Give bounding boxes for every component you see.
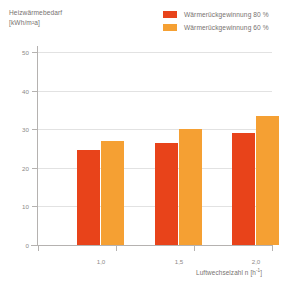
bar-0-0 — [77, 150, 100, 245]
y-tick-label: 0 — [26, 242, 29, 249]
plot-area: 01020304050 1,01,52,0 — [38, 52, 272, 245]
x-tick-mark — [38, 245, 39, 251]
y-tick-label: 20 — [22, 164, 29, 171]
y-tick-label: 30 — [22, 126, 29, 133]
legend-swatch-icon-1 — [163, 24, 177, 31]
x-tick-label: 1,5 — [175, 258, 184, 265]
bar-chart: Heizwärmebedarf [kWh/m²a] Wärmerückgewin… — [0, 0, 295, 289]
legend-item-1: Wärmerückgewinnung 60 % — [163, 22, 269, 33]
x-axis-line — [31, 245, 272, 246]
chart-legend: Wärmerückgewinnung 80 % Wärmerückgewinnu… — [163, 9, 269, 35]
bar-1-0 — [101, 141, 124, 245]
y-axis-title-line2: [kWh/m²a] — [9, 18, 62, 28]
x-axis-title: Luftwechselzahl n [h-1] — [196, 268, 262, 276]
bar-1-2 — [256, 116, 279, 245]
y-axis-title-line1: Heizwärmebedarf — [9, 8, 62, 18]
bar-0-2 — [232, 133, 255, 245]
y-tick-label: 10 — [22, 203, 29, 210]
legend-swatch-icon-0 — [163, 11, 177, 18]
x-tick-mark — [116, 245, 117, 251]
y-tick-label: 40 — [22, 87, 29, 94]
y-tick-label: 50 — [22, 49, 29, 56]
x-tick-label: 1,0 — [97, 258, 106, 265]
y-axis-title: Heizwärmebedarf [kWh/m²a] — [9, 8, 62, 27]
x-tick-mark — [272, 245, 273, 251]
bar-group — [155, 52, 202, 245]
bar-1-1 — [179, 129, 202, 245]
legend-label-0: Wärmerückgewinnung 80 % — [184, 11, 269, 18]
x-tick-mark — [194, 245, 195, 251]
bar-group — [77, 52, 124, 245]
x-tick-label: 2,0 — [252, 258, 261, 265]
x-axis-title-main: Luftwechselzahl n [h — [196, 269, 256, 276]
bar-groups — [38, 52, 272, 245]
bar-group — [232, 52, 279, 245]
x-axis-title-tail: ] — [260, 269, 262, 276]
legend-label-1: Wärmerückgewinnung 60 % — [184, 24, 269, 31]
bar-0-1 — [155, 143, 178, 245]
legend-item-0: Wärmerückgewinnung 80 % — [163, 9, 269, 20]
